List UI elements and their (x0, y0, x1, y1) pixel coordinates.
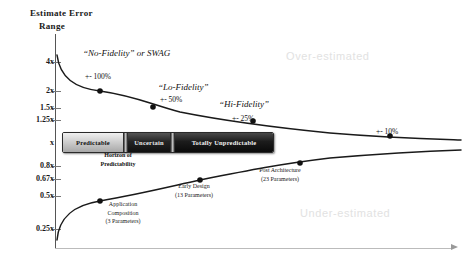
horizon-caption-line2: Predictability (88, 160, 148, 169)
annotation-hi-fidelity: “Hi-Fidelity” (219, 99, 269, 109)
annotation-plus-minus-100: +- 100% (85, 72, 111, 81)
y-label-0-67x: 0.67x (36, 174, 54, 183)
y-label-1-25x: 1.25x (36, 115, 54, 124)
y-label-2x: 2x (46, 86, 54, 95)
annotation-post-arch-line1: Post Architecture (243, 166, 317, 175)
annotation-lo-fidelity: “Lo-Fidelity” (158, 82, 209, 92)
y-axis-title-line1: Estimate Error (30, 8, 93, 18)
cone-of-uncertainty-figure: Estimate Error Range 4x 2x 1.5x 1.25x x … (0, 0, 471, 262)
horizon-caption-line1: Horizon of (88, 151, 148, 160)
data-point-post-architecture (297, 160, 303, 166)
region-label-under-estimated: Under-estimated (300, 207, 390, 219)
y-label-1-5x: 1.5x (40, 103, 54, 112)
annotation-app-comp-line1: Application (85, 200, 161, 209)
annotation-app-comp-line2: Composition (85, 209, 161, 218)
annotation-no-fidelity: “No-Fidelity” or SWAG (83, 48, 170, 58)
y-label-4x: 4x (46, 57, 54, 66)
y-label-0-5x: 0.5x (40, 191, 54, 200)
annotation-early-design: Early Design (13 Parameters) (160, 182, 228, 199)
annotation-early-design-line1: Early Design (160, 182, 228, 191)
y-label-0-25x: 0.25x (36, 224, 54, 233)
x-axis-arrow-icon (451, 244, 458, 250)
y-label-x: x (50, 138, 54, 147)
data-point-100pct (97, 88, 103, 94)
annotation-post-arch-line2: (23 Parameters) (243, 175, 317, 184)
annotation-plus-minus-25: +- 25% (232, 114, 254, 123)
data-point-50pct (150, 104, 156, 110)
x-axis-line (55, 248, 453, 249)
annotation-plus-minus-10: +- 10% (376, 127, 398, 136)
annotation-post-architecture: Post Architecture (23 Parameters) (243, 166, 317, 183)
annotation-app-comp-line3: (3 Parameters) (85, 217, 161, 226)
annotation-application-composition: Application Composition (3 Parameters) (85, 200, 161, 226)
y-axis-line (55, 34, 56, 249)
segment-predictable: Predictable (63, 133, 123, 152)
upper-bound-curve (57, 55, 461, 140)
annotation-early-design-line2: (13 Parameters) (160, 191, 228, 200)
cone-curves (0, 0, 471, 262)
y-label-0-8x: 0.8x (40, 161, 54, 170)
horizon-caption: Horizon of Predictability (88, 151, 148, 168)
y-axis-title-line2: Range (39, 21, 65, 31)
segment-uncertain: Uncertain (128, 133, 170, 152)
horizon-of-predictability-bar: Predictable Uncertain Totally Unpredicta… (62, 132, 274, 153)
annotation-plus-minus-50: +- 50% (160, 95, 182, 104)
segment-totally-unpredictable: Totally Unpredictable (175, 133, 273, 152)
region-label-over-estimated: Over-estimated (286, 50, 370, 62)
